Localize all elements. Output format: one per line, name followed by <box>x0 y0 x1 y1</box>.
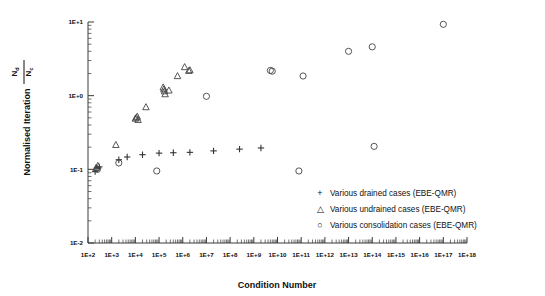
marker-triangle <box>174 73 180 79</box>
chart-figure: 1E+21E+31E+41E+51E+61E+71E+81E+91E+101E+… <box>0 0 545 296</box>
legend-glyph-0: + <box>317 188 322 198</box>
y-tick-label: 1E-1 <box>70 166 84 173</box>
marker-circle <box>296 168 302 174</box>
x-tick-label: 1E+3 <box>104 251 119 258</box>
marker-circle <box>345 48 351 54</box>
x-tick-label: 1E+11 <box>292 251 310 258</box>
marker-triangle <box>113 141 119 147</box>
legend-glyph-1: △ <box>317 204 324 214</box>
series-circle <box>94 21 446 174</box>
marker-triangle <box>181 64 187 70</box>
marker-circle <box>203 93 209 99</box>
y-axis-title: Normalised Iteration <box>22 88 32 175</box>
x-axis-title: Condition Number <box>238 280 317 290</box>
y-tick-label: 1E+1 <box>68 18 83 25</box>
legend: +Various drained cases (EBE-QMR)△Various… <box>317 188 478 230</box>
x-tick-label: 1E+9 <box>247 251 262 258</box>
scatter-plot-svg: 1E+21E+31E+41E+51E+61E+71E+81E+91E+101E+… <box>0 0 545 296</box>
x-tick-label: 1E+8 <box>223 251 238 258</box>
marker-circle <box>300 73 306 79</box>
y-axis-title-text: Normalised Iteration <box>22 88 32 175</box>
y-tick-label: 1E+0 <box>68 92 83 99</box>
x-tick-label: 1E+5 <box>152 251 167 258</box>
x-tick-label: 1E+4 <box>128 251 143 258</box>
x-tick-label: 1E+18 <box>458 251 477 258</box>
marker-triangle <box>143 104 149 110</box>
x-tick-label: 1E+6 <box>175 251 190 258</box>
x-tick-label: 1E+15 <box>387 251 406 258</box>
fraction-numerator: Nc <box>24 68 34 77</box>
data-points-layer <box>92 21 446 175</box>
x-tick-label: 1E+2 <box>81 251 96 258</box>
x-tick-label: 1E+17 <box>434 251 453 258</box>
legend-label-2: Various consolidation cases (EBE-QMR) <box>330 221 477 230</box>
y-axis-fraction: Nc Nd <box>10 60 34 84</box>
x-tick-label: 1E+12 <box>316 251 335 258</box>
x-tick-label: 1E+16 <box>411 251 430 258</box>
legend-glyph-2: ○ <box>317 220 322 230</box>
marker-circle <box>371 143 377 149</box>
legend-label-1: Various undrained cases (EBE-QMR) <box>330 205 466 214</box>
fraction-denominator: Nd <box>10 67 20 76</box>
legend-label-0: Various drained cases (EBE-QMR) <box>330 189 457 198</box>
x-tick-label: 1E+10 <box>268 251 287 258</box>
marker-circle <box>440 21 446 27</box>
marker-circle <box>154 168 160 174</box>
y-tick-label: 1E-2 <box>70 239 84 246</box>
x-tick-label: 1E+13 <box>340 251 359 258</box>
x-tick-label: 1E+7 <box>199 251 214 258</box>
marker-circle <box>369 44 375 50</box>
x-tick-label: 1E+14 <box>363 251 382 258</box>
